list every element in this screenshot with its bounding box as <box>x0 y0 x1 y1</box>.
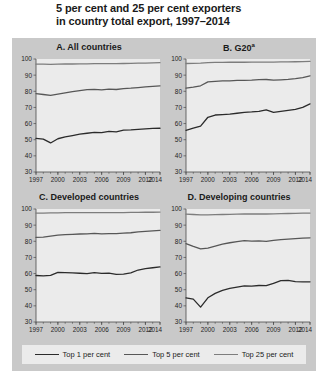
svg-text:100: 100 <box>171 55 182 62</box>
svg-text:2000: 2000 <box>51 176 66 183</box>
svg-text:2003: 2003 <box>223 176 238 183</box>
figure-title: 5 per cent and 25 per cent exporters in … <box>56 2 306 28</box>
svg-text:2014: 2014 <box>298 176 313 183</box>
svg-text:2006: 2006 <box>95 326 110 333</box>
legend-label-top-1: Top 1 per cent <box>63 350 111 359</box>
panel-d-title: D. Developing countries <box>164 192 314 202</box>
svg-text:2000: 2000 <box>201 176 216 183</box>
figure-title-line-2: in country total export, 1997–2014 <box>56 15 230 27</box>
svg-text:40: 40 <box>175 152 183 159</box>
svg-text:50: 50 <box>175 286 183 293</box>
svg-text:30: 30 <box>25 318 33 325</box>
svg-text:40: 40 <box>25 302 33 309</box>
svg-text:1997: 1997 <box>179 176 194 183</box>
panel-d-svg: 3040506070809010019972000200320062009201… <box>164 205 314 338</box>
svg-text:50: 50 <box>25 136 33 143</box>
svg-text:2014: 2014 <box>148 326 163 333</box>
svg-text:2006: 2006 <box>245 176 260 183</box>
svg-text:1997: 1997 <box>29 176 44 183</box>
legend-line-icon-top-1 <box>35 354 59 355</box>
svg-text:60: 60 <box>25 270 33 277</box>
svg-text:2003: 2003 <box>73 176 88 183</box>
legend-item-top-25: Top 25 per cent <box>214 350 294 359</box>
svg-text:70: 70 <box>175 254 183 261</box>
svg-text:70: 70 <box>175 104 183 111</box>
panel-b-title-text: B. G20 <box>223 43 252 53</box>
svg-text:100: 100 <box>21 205 32 212</box>
panel-a-title: A. All countries <box>14 42 164 52</box>
svg-text:80: 80 <box>25 238 33 245</box>
svg-text:80: 80 <box>25 88 33 95</box>
svg-text:90: 90 <box>25 222 33 229</box>
svg-text:70: 70 <box>25 104 33 111</box>
svg-text:2000: 2000 <box>201 326 216 333</box>
svg-text:90: 90 <box>25 72 33 79</box>
svg-text:2000: 2000 <box>51 326 66 333</box>
panel-b-plot: 3040506070809010019972000200320062009201… <box>164 55 314 188</box>
legend-line-icon-top-5 <box>124 354 148 355</box>
panel-c-svg: 3040506070809010019972000200320062009201… <box>14 205 164 338</box>
svg-text:90: 90 <box>175 72 183 79</box>
figure-container: 5 per cent and 25 per cent exporters in … <box>0 0 328 385</box>
svg-text:2009: 2009 <box>117 326 132 333</box>
svg-text:2009: 2009 <box>267 326 282 333</box>
panel-a-all-countries: A. All countries 30405060708090100199720… <box>14 42 164 190</box>
svg-text:50: 50 <box>25 286 33 293</box>
panel-d-developing-countries: D. Developing countries 3040506070809010… <box>164 192 314 340</box>
panel-c-plot: 3040506070809010019972000200320062009201… <box>14 205 164 338</box>
legend-line-icon-top-25 <box>214 354 238 355</box>
svg-text:60: 60 <box>175 270 183 277</box>
panel-c-title: C. Developed countries <box>14 192 164 202</box>
svg-text:2009: 2009 <box>117 176 132 183</box>
svg-text:40: 40 <box>175 302 183 309</box>
svg-text:30: 30 <box>175 168 183 175</box>
svg-text:1997: 1997 <box>179 326 194 333</box>
svg-text:2006: 2006 <box>95 176 110 183</box>
svg-text:30: 30 <box>25 168 33 175</box>
svg-text:60: 60 <box>175 120 183 127</box>
panel-b-g20: B. G20a 30405060708090100199720002003200… <box>164 42 314 190</box>
legend-label-top-25: Top 25 per cent <box>242 350 294 359</box>
svg-text:2014: 2014 <box>148 176 163 183</box>
svg-text:70: 70 <box>25 254 33 261</box>
svg-text:60: 60 <box>25 120 33 127</box>
svg-text:100: 100 <box>171 205 182 212</box>
svg-text:2009: 2009 <box>267 176 282 183</box>
svg-text:2014: 2014 <box>298 326 313 333</box>
svg-text:2003: 2003 <box>223 326 238 333</box>
panel-a-svg: 3040506070809010019972000200320062009201… <box>14 55 164 188</box>
panel-d-plot: 3040506070809010019972000200320062009201… <box>164 205 314 338</box>
svg-text:50: 50 <box>175 136 183 143</box>
panel-c-developed-countries: C. Developed countries 30405060708090100… <box>14 192 164 340</box>
legend-item-top-5: Top 5 per cent <box>124 350 200 359</box>
svg-text:2003: 2003 <box>73 326 88 333</box>
panel-a-plot: 3040506070809010019972000200320062009201… <box>14 55 164 188</box>
svg-text:40: 40 <box>25 152 33 159</box>
svg-text:90: 90 <box>175 222 183 229</box>
svg-text:100: 100 <box>21 55 32 62</box>
legend: Top 1 per cent Top 5 per cent Top 25 per… <box>22 345 306 364</box>
svg-text:80: 80 <box>175 88 183 95</box>
panel-b-title-footnote-marker: a <box>252 42 255 48</box>
panel-b-svg: 3040506070809010019972000200320062009201… <box>164 55 314 188</box>
svg-text:80: 80 <box>175 238 183 245</box>
legend-label-top-5: Top 5 per cent <box>152 350 200 359</box>
svg-text:1997: 1997 <box>29 326 44 333</box>
svg-text:30: 30 <box>175 318 183 325</box>
figure-title-line-1: 5 per cent and 25 per cent exporters <box>56 2 241 14</box>
legend-item-top-1: Top 1 per cent <box>35 350 111 359</box>
panel-b-title: B. G20a <box>164 42 314 53</box>
svg-text:2006: 2006 <box>245 326 260 333</box>
